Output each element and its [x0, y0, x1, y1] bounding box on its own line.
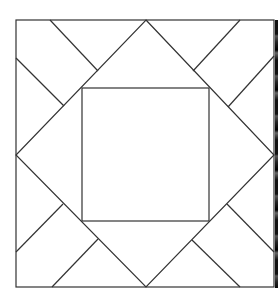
corner-line-br-right [227, 204, 274, 252]
corner-line-tr-right [228, 56, 274, 107]
corner-line-bl-left [16, 204, 63, 252]
corner-line-bl-bottom [52, 239, 98, 287]
corner-line-tr-top [193, 20, 240, 71]
inner-square [82, 88, 209, 221]
outer-square [16, 20, 274, 287]
diamond [16, 20, 274, 287]
corner-line-tl-top [50, 20, 98, 71]
corner-line-tl-left [16, 58, 64, 106]
corner-line-br-bottom [192, 240, 240, 287]
edge-stripe [275, 20, 278, 288]
corner-lines [16, 20, 274, 287]
quilt-block-diagram [0, 0, 278, 299]
